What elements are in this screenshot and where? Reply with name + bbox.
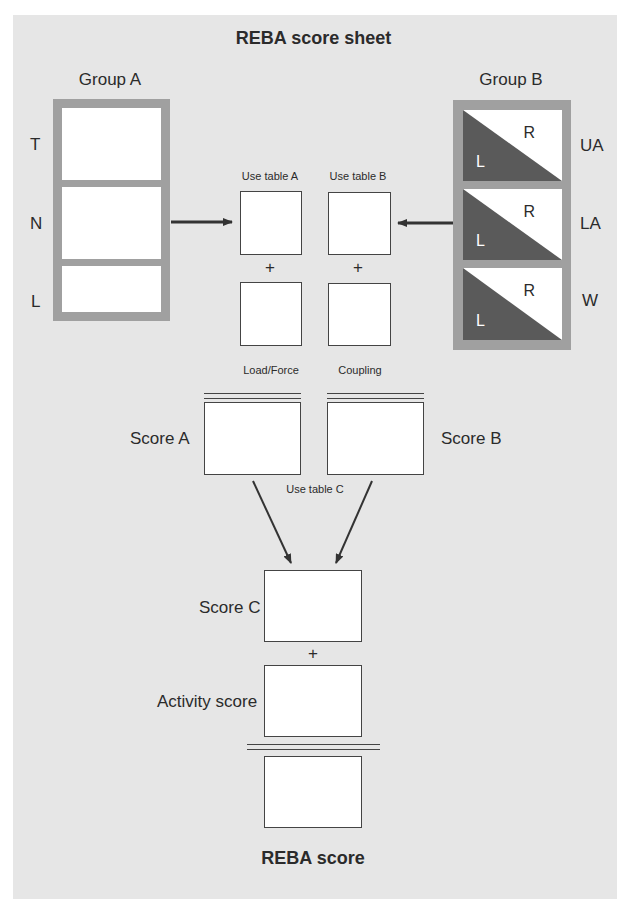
reba-score-label: REBA score xyxy=(213,848,413,869)
activity-score-box[interactable] xyxy=(264,665,362,737)
activity-score-label: Activity score xyxy=(157,692,257,712)
arrow-score-a-to-score-c xyxy=(253,481,291,563)
plus-sign-c: + xyxy=(303,644,323,664)
arrow-score-b-to-score-c xyxy=(336,481,372,563)
score-c-label: Score C xyxy=(199,598,260,618)
score-c-box[interactable] xyxy=(264,570,362,642)
reba-double-line xyxy=(247,744,380,750)
reba-score-box[interactable] xyxy=(264,756,362,828)
